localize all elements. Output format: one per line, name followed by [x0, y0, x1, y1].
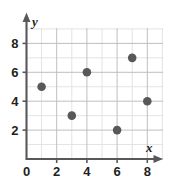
y-axis-label: y	[30, 14, 38, 29]
x-tick-label-2: 2	[53, 164, 60, 179]
data-point	[37, 82, 46, 91]
x-tick-label-6: 6	[113, 164, 120, 179]
x-axis-label: x	[145, 140, 153, 155]
chart-canvas: 024682468 y x	[0, 0, 172, 181]
y-tick-label-6: 6	[11, 65, 18, 80]
x-tick-label-8: 8	[144, 164, 151, 179]
y-tick-label-2: 2	[11, 123, 18, 138]
y-tick-label-8: 8	[11, 36, 18, 51]
data-point	[113, 126, 122, 135]
x-tick-label-0: 0	[23, 164, 30, 179]
x-tick-label-4: 4	[83, 164, 91, 179]
y-tick-label-4: 4	[11, 94, 19, 109]
scatter-plot-figure: 024682468 y x	[0, 0, 172, 181]
data-point	[143, 97, 152, 106]
data-point	[83, 68, 92, 77]
data-point	[128, 54, 137, 63]
data-point	[68, 111, 77, 120]
